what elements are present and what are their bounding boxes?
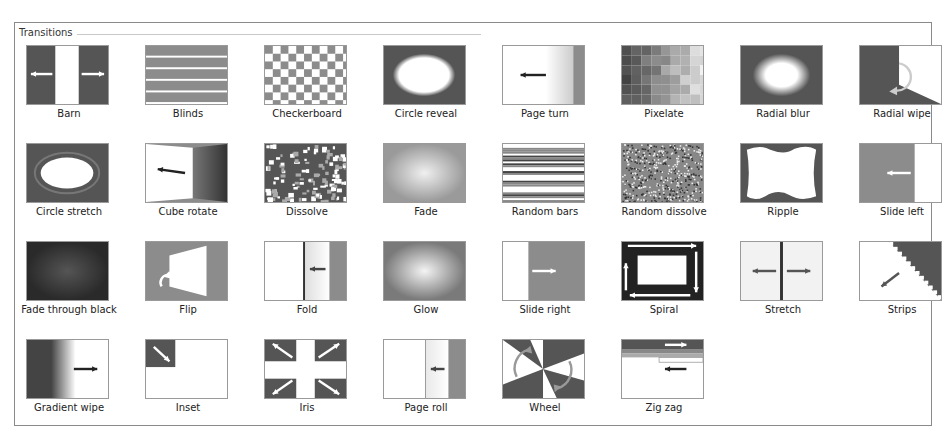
transition-label: Cube rotate [127, 206, 249, 217]
transition-label: Fade [365, 206, 487, 217]
transition-label: Flip [127, 304, 249, 315]
transition-label: Glow [365, 304, 487, 315]
transition-radial-wipe[interactable]: Radial wipe [847, 45, 945, 129]
transition-label: Spiral [603, 304, 725, 315]
transitions-grid: BarnBlindsCheckerboardCircle revealPage … [15, 23, 931, 425]
transition-label: Gradient wipe [8, 402, 130, 413]
transition-label: Page turn [484, 108, 606, 119]
transition-label: Inset [127, 402, 249, 413]
random-dissolve-icon[interactable] [621, 143, 704, 203]
transition-label: Radial blur [722, 108, 844, 119]
transition-label: Radial wipe [841, 108, 945, 119]
transition-label: Slide left [841, 206, 945, 217]
transition-radial-blur[interactable]: Radial blur [728, 45, 838, 129]
transition-label: Pixelate [603, 108, 725, 119]
transition-glow[interactable]: Glow [371, 241, 481, 325]
iris-icon[interactable] [264, 339, 347, 399]
wheel-icon[interactable] [502, 339, 585, 399]
spiral-icon[interactable] [621, 241, 704, 301]
cube-rotate-icon[interactable] [145, 143, 228, 203]
fade-through-black-icon[interactable] [26, 241, 109, 301]
circle-stretch-icon[interactable] [26, 143, 109, 203]
transition-fold[interactable]: Fold [252, 241, 362, 325]
transition-fade-through-black[interactable]: Fade through black [14, 241, 124, 325]
transition-blinds[interactable]: Blinds [133, 45, 243, 129]
transition-page-roll[interactable]: Page roll [371, 339, 481, 423]
ripple-icon[interactable] [740, 143, 823, 203]
transition-label: Random bars [484, 206, 606, 217]
transition-label: Random dissolve [603, 206, 725, 217]
transition-label: Circle stretch [8, 206, 130, 217]
glow-icon[interactable] [383, 241, 466, 301]
radial-wipe-icon[interactable] [859, 45, 942, 105]
transition-stretch[interactable]: Stretch [728, 241, 838, 325]
transition-slide-left[interactable]: Slide left [847, 143, 945, 227]
transition-label: Dissolve [246, 206, 368, 217]
dissolve-icon[interactable] [264, 143, 347, 203]
zig-zag-icon[interactable] [621, 339, 704, 399]
transition-label: Circle reveal [365, 108, 487, 119]
transition-spiral[interactable]: Spiral [609, 241, 719, 325]
transition-checkerboard[interactable]: Checkerboard [252, 45, 362, 129]
strips-icon[interactable] [859, 241, 942, 301]
transition-label: Fade through black [8, 304, 130, 315]
transition-pixelate[interactable]: Pixelate [609, 45, 719, 129]
transition-label: Stretch [722, 304, 844, 315]
page-turn-icon[interactable] [502, 45, 585, 105]
transition-dissolve[interactable]: Dissolve [252, 143, 362, 227]
transition-iris[interactable]: Iris [252, 339, 362, 423]
flip-icon[interactable] [145, 241, 228, 301]
transition-barn[interactable]: Barn [14, 45, 124, 129]
blinds-icon[interactable] [145, 45, 228, 105]
slide-left-icon[interactable] [859, 143, 942, 203]
stretch-icon[interactable] [740, 241, 823, 301]
transition-slide-right[interactable]: Slide right [490, 241, 600, 325]
radial-blur-icon[interactable] [740, 45, 823, 105]
gradient-wipe-icon[interactable] [26, 339, 109, 399]
transition-wheel[interactable]: Wheel [490, 339, 600, 423]
transition-random-dissolve[interactable]: Random dissolve [609, 143, 719, 227]
transition-inset[interactable]: Inset [133, 339, 243, 423]
fade-icon[interactable] [383, 143, 466, 203]
transition-label: Barn [8, 108, 130, 119]
transitions-group: Transitions BarnBlindsCheckerboardCircle… [14, 22, 932, 426]
transition-label: Zig zag [603, 402, 725, 413]
slide-right-icon[interactable] [502, 241, 585, 301]
transition-strips[interactable]: Strips [847, 241, 945, 325]
transition-label: Slide right [484, 304, 606, 315]
transition-label: Wheel [484, 402, 606, 413]
barn-icon[interactable] [26, 45, 109, 105]
transition-random-bars[interactable]: Random bars [490, 143, 600, 227]
transition-label: Blinds [127, 108, 249, 119]
transition-circle-reveal[interactable]: Circle reveal [371, 45, 481, 129]
transition-circle-stretch[interactable]: Circle stretch [14, 143, 124, 227]
fold-icon[interactable] [264, 241, 347, 301]
transition-fade[interactable]: Fade [371, 143, 481, 227]
transition-page-turn[interactable]: Page turn [490, 45, 600, 129]
transition-label: Ripple [722, 206, 844, 217]
page-roll-icon[interactable] [383, 339, 466, 399]
transition-cube-rotate[interactable]: Cube rotate [133, 143, 243, 227]
inset-icon[interactable] [145, 339, 228, 399]
transition-label: Checkerboard [246, 108, 368, 119]
transition-label: Iris [246, 402, 368, 413]
random-bars-icon[interactable] [502, 143, 585, 203]
transition-flip[interactable]: Flip [133, 241, 243, 325]
transition-label: Strips [841, 304, 945, 315]
transition-label: Page roll [365, 402, 487, 413]
pixelate-icon[interactable] [621, 45, 704, 105]
transition-label: Fold [246, 304, 368, 315]
transition-ripple[interactable]: Ripple [728, 143, 838, 227]
transition-gradient-wipe[interactable]: Gradient wipe [14, 339, 124, 423]
circle-reveal-icon[interactable] [383, 45, 466, 105]
transition-zig-zag[interactable]: Zig zag [609, 339, 719, 423]
checkerboard-icon[interactable] [264, 45, 347, 105]
